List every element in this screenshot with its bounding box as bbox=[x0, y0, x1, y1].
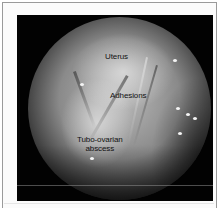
light-reflection bbox=[178, 132, 182, 135]
label-uterus: Uterus bbox=[105, 52, 128, 61]
label-tubo-ovarian-abscess: Tubo-ovarian abscess bbox=[77, 135, 123, 153]
shadow-region bbox=[28, 145, 211, 200]
light-reflection bbox=[90, 157, 94, 160]
figure-frame: Uterus Adhesions Tubo-ovarian abscess bbox=[2, 2, 217, 208]
label-adhesions: Adhesions bbox=[110, 91, 146, 100]
label-abscess-line2: abscess bbox=[77, 144, 123, 153]
light-reflection bbox=[176, 107, 180, 110]
caption-divider bbox=[4, 203, 214, 204]
light-reflection bbox=[173, 59, 177, 62]
scope-view-circle bbox=[28, 17, 211, 200]
scan-line-artifact bbox=[17, 185, 213, 186]
label-abscess-line1: Tubo-ovarian bbox=[77, 135, 123, 144]
laparoscopic-photo: Uterus Adhesions Tubo-ovarian abscess bbox=[17, 15, 213, 201]
light-reflection bbox=[186, 113, 190, 116]
light-reflection bbox=[80, 83, 84, 86]
light-reflection bbox=[193, 117, 197, 120]
tissue-fold bbox=[73, 71, 96, 128]
